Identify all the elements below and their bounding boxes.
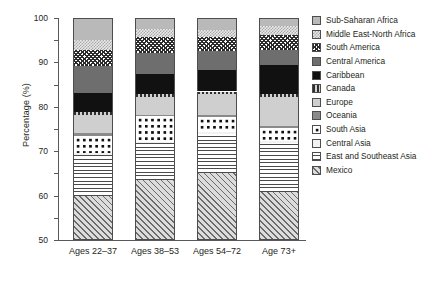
bar-segment-mexico (197, 173, 237, 240)
bar-segment-subsaharan (197, 18, 237, 30)
y-tick: 10 (54, 218, 58, 219)
bar-segment-caribbean (197, 70, 237, 91)
bar-segment-menafrica (259, 26, 299, 35)
y-tick-label: 70 (39, 146, 48, 156)
bar-segment-caribbean (259, 65, 299, 94)
legend-item[interactable]: East and Southeast Asia (312, 150, 442, 164)
legend-swatch-icon (312, 125, 321, 134)
bar-segment-europe (197, 94, 237, 115)
bar-segment-menafrica (197, 30, 237, 37)
bar-segment-eastasia (197, 134, 237, 174)
y-axis-title: Percentage (%) (21, 45, 31, 185)
legend-label: Mexico (326, 166, 352, 175)
bar-segment-menafrica (73, 40, 113, 50)
legend-item[interactable]: Middle East-North Africa (312, 28, 442, 42)
bar-segment-subsaharan (135, 18, 175, 29)
bar-segment-southasia (259, 128, 299, 141)
bar-segment-centralamerica (259, 50, 299, 64)
bar-segment-europe (73, 115, 113, 134)
y-tick: 60 (54, 107, 58, 108)
bar-segment-southamerica (197, 37, 237, 51)
y-tick: 20 (54, 196, 58, 197)
bar-segment-europe (259, 97, 299, 127)
y-tick-label: 50 (39, 235, 48, 245)
bar-segment-oceania (135, 115, 175, 116)
y-tick: 90 (54, 40, 58, 41)
bar-segment-centralasia (73, 153, 113, 155)
legend-label: Caribbean (326, 71, 364, 80)
legend-item[interactable]: Mexico (312, 164, 442, 178)
bar-segment-mexico (259, 192, 299, 240)
bar-segment-eastasia (259, 143, 299, 192)
bar-segment-oceania (197, 115, 237, 117)
y-tick: 70 (54, 85, 58, 86)
bar-segment-centralamerica (197, 51, 237, 70)
bar-segment-centralamerica (135, 53, 175, 74)
legend-item[interactable]: Central America (312, 55, 442, 69)
bar-segment-subsaharan (73, 18, 113, 40)
y-tick: 40 (54, 151, 58, 152)
bar-segment-southasia (197, 117, 237, 133)
y-tick: 50 (54, 129, 58, 130)
legend-label: Canada (326, 84, 355, 93)
legend-label: Central America (326, 57, 385, 66)
bar-segment-centralasia (197, 132, 237, 134)
bar-segment-southamerica (259, 35, 299, 50)
bar-segment-caribbean (73, 93, 113, 111)
bar-segment-southasia (135, 116, 175, 142)
legend: Sub-Saharan AfricaMiddle East-North Afri… (312, 14, 442, 177)
bar-segment-centralasia (259, 141, 299, 143)
legend-swatch-icon (312, 71, 321, 80)
bar-segment-southamerica (135, 37, 175, 53)
legend-item[interactable]: South America (312, 41, 442, 55)
legend-swatch-icon (312, 84, 321, 93)
bar-segment-centralasia (135, 142, 175, 144)
bar-segment-canada (73, 112, 113, 115)
legend-swatch-icon (312, 43, 321, 52)
y-tick-label: 60 (39, 191, 48, 201)
legend-item[interactable]: Canada (312, 82, 442, 96)
legend-item[interactable]: South Asia (312, 123, 442, 137)
legend-item[interactable]: Europe (312, 96, 442, 110)
y-tick-label: 100 (34, 13, 48, 23)
stacked-bar-chart: Percentage (%) 0102030405060708090100 Ag… (0, 0, 443, 281)
y-tick: 0 (54, 240, 58, 241)
bar-segment-southamerica (73, 50, 113, 66)
legend-swatch-icon (312, 166, 321, 175)
bar-segment-canada (259, 94, 299, 97)
legend-item[interactable]: Oceania (312, 109, 442, 123)
legend-item[interactable]: Sub-Saharan Africa (312, 14, 442, 28)
bar-2 (135, 18, 175, 240)
y-axis-line (58, 18, 59, 240)
bar-segment-eastasia (135, 143, 175, 180)
y-tick: 100 (54, 18, 58, 19)
legend-label: Sub-Saharan Africa (326, 16, 398, 25)
legend-label: Middle East-North Africa (326, 30, 415, 39)
bar-3 (197, 18, 237, 240)
bar-segment-canada (197, 92, 237, 95)
bar-segment-centralamerica (73, 66, 113, 93)
y-tick: 80 (54, 62, 58, 63)
legend-swatch-icon (312, 30, 321, 39)
legend-label: Europe (326, 98, 353, 107)
legend-item[interactable]: Caribbean (312, 68, 442, 82)
y-tick: 30 (54, 173, 58, 174)
bar-segment-mexico (73, 196, 113, 240)
bar-segment-southasia (73, 136, 113, 154)
bar-segment-mexico (135, 180, 175, 240)
legend-swatch-icon (312, 139, 321, 148)
y-tick-label: 80 (39, 102, 48, 112)
bar-segment-oceania (73, 133, 113, 135)
y-tick-label: 90 (39, 57, 48, 67)
bar-1 (73, 18, 113, 240)
legend-label: South America (326, 43, 380, 52)
legend-item[interactable]: Central Asia (312, 136, 442, 150)
x-tick-label: Age 73+ (234, 246, 324, 256)
bar-4 (259, 18, 299, 240)
legend-swatch-icon (312, 57, 321, 66)
bar-segment-europe (135, 97, 175, 115)
x-axis-line (58, 240, 306, 241)
legend-swatch-icon (312, 152, 321, 161)
legend-label: East and Southeast Asia (326, 152, 416, 161)
bar-segment-caribbean (135, 74, 175, 94)
